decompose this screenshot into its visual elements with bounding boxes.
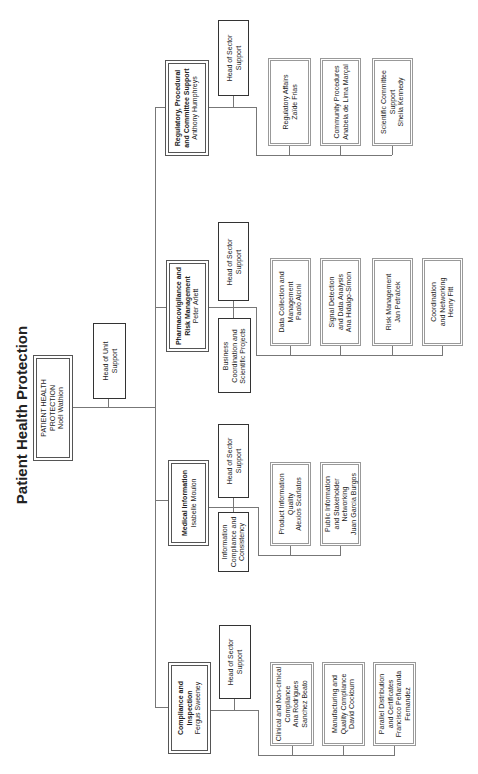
office-box-regulatory-affairs: Regulatory Affairs Zaïde Frias xyxy=(268,58,311,146)
unit-name-2: PROTECTION xyxy=(49,379,58,436)
sector-name: Compliance and xyxy=(177,681,186,735)
office-name: Public Information xyxy=(324,473,333,535)
connector-reg-c2 xyxy=(340,145,341,155)
extra-line: Coordination and xyxy=(230,328,239,383)
office-box-clinical-compliance: Clinical and Non-clinical Compliance Ana… xyxy=(270,662,314,746)
office-name-2: Quality Compliance xyxy=(339,674,348,735)
connector-pv-c3 xyxy=(392,345,393,355)
office-name-2: Compliance xyxy=(284,667,293,741)
sector-box-medical-information: Medical Information Isabelle Moulon xyxy=(168,460,209,546)
support-label-2: Support xyxy=(234,35,243,82)
support-label: Head of Unit xyxy=(101,342,110,381)
information-compliance-box: Information Compliance and Consistency xyxy=(218,512,249,572)
office-box-signal-detection: Signal Detection and Data Analysis Ana H… xyxy=(320,258,361,346)
sector-head: Fergus Sweeney xyxy=(194,681,203,735)
office-head: David Cockburn xyxy=(348,674,357,735)
support-label-2: Support xyxy=(235,639,244,686)
connector-pv-h xyxy=(208,307,256,308)
connector-pv-support xyxy=(233,300,234,318)
office-name-2: Management xyxy=(286,271,295,332)
office-head: Francisco Peñaranda xyxy=(395,671,404,738)
support-label: Head of Sector xyxy=(225,238,234,285)
office-box-public-information: Public Information and Stakeholder Netwo… xyxy=(320,462,361,546)
connector-med-support xyxy=(233,497,234,512)
connector-pv-c4 xyxy=(442,345,443,355)
office-name-2: and Certificates xyxy=(386,671,395,738)
sector-name: Medical Information xyxy=(180,470,189,536)
sector-box-regulatory: Regulatory, Procedural and Committee Sup… xyxy=(165,60,209,156)
office-head-2: Sanchez Beato xyxy=(301,667,310,741)
office-box-scientific-committee-support: Scientific Committee Support Sheila Kenn… xyxy=(372,58,413,146)
extra-line: Scientific Projects xyxy=(239,328,248,383)
extra-line: Information xyxy=(221,517,230,568)
connector-comp-support xyxy=(234,698,235,710)
connector-pv-children xyxy=(256,355,443,356)
office-box-parallel-distribution: Parallel Distribution and Certificates F… xyxy=(373,662,416,746)
office-head: Paolo Alcini xyxy=(295,271,304,332)
sector-name: Pharmacovigilance and xyxy=(175,267,184,345)
office-name-3: Networking xyxy=(341,473,350,535)
compliance-head-of-sector-support: Head of Sector Support xyxy=(219,625,251,699)
connector-comp-down xyxy=(258,710,259,755)
connector-med-c1 xyxy=(290,545,291,555)
office-box-community-procedures: Community Procedures Anabela de Lima Mar… xyxy=(320,58,361,146)
office-head: Ana Hidalgo-Simon xyxy=(345,272,354,332)
office-head: Zaïde Frias xyxy=(290,74,299,129)
office-name: Manufacturing and xyxy=(331,674,340,735)
office-name: Regulatory Affairs xyxy=(281,74,290,129)
office-name: Product Information xyxy=(278,473,287,534)
office-name: Data Collection and xyxy=(278,271,287,332)
sector-head: Isabelle Moulon xyxy=(189,470,198,536)
connector-reg-down xyxy=(256,107,257,155)
support-label-2: Support xyxy=(234,438,243,485)
sector-name-2: Inspection xyxy=(185,681,194,735)
office-name: Risk Management xyxy=(384,274,393,330)
sector-head: Peter Arlett xyxy=(192,267,201,345)
connector-pv-c1 xyxy=(290,345,291,355)
office-name-2: Quality xyxy=(286,473,295,534)
connector-reg-h xyxy=(208,107,256,108)
office-box-manufacturing-quality: Manufacturing and Quality Compliance Dav… xyxy=(322,662,365,746)
office-head: Sheila Kennedy xyxy=(397,70,406,134)
sector-name-2: Risk Management xyxy=(183,267,192,345)
pharmaco-head-of-sector-support: Head of Sector Support xyxy=(218,222,249,301)
connector-unit-support xyxy=(108,398,109,408)
office-head: Juan Garcia Burgos xyxy=(349,473,358,535)
office-name: Scientific Committee xyxy=(380,70,389,134)
office-name: Clinical and Non-clinical xyxy=(275,667,284,741)
unit-box-patient-health-protection: PATIENT HEALTH PROTECTION Noël Wathion xyxy=(33,355,73,461)
unit-head: Noël Wathion xyxy=(57,379,66,436)
connector-reg-c1 xyxy=(289,145,290,155)
office-head: Anabela de Lima Marçal xyxy=(341,64,350,140)
sector-name-2: and Committee Support xyxy=(183,68,192,147)
connector-comp-h xyxy=(210,710,258,711)
sector-name: Regulatory, Procedural xyxy=(174,68,183,147)
chart-title: Patient Health Protection xyxy=(13,326,30,504)
connector-spine-medical xyxy=(155,500,168,501)
regulatory-head-of-sector-support: Head of Sector Support xyxy=(218,20,249,96)
office-head: Jan Petráček xyxy=(393,274,402,330)
support-label-2: Support xyxy=(234,238,243,285)
medical-head-of-sector-support: Head of Sector Support xyxy=(218,424,249,498)
connector-comp-children xyxy=(258,755,395,756)
office-head: Alexios Scarlatos xyxy=(295,473,304,534)
connector-reg-support xyxy=(233,95,234,107)
connector-reg-children xyxy=(256,155,392,156)
office-name: Signal Detection xyxy=(328,272,337,332)
connector-comp-c3 xyxy=(394,745,395,755)
connector-pv-c2 xyxy=(340,345,341,355)
extra-line: Compliance and xyxy=(229,517,238,568)
support-label: Head of Sector xyxy=(225,438,234,485)
office-box-risk-management: Risk Management Jan Petráček xyxy=(372,258,413,346)
support-label-2: Support xyxy=(110,342,119,381)
connector-med-children xyxy=(258,555,341,556)
office-name-2: Support xyxy=(388,70,397,134)
office-box-data-collection: Data Collection and Management Paolo Alc… xyxy=(270,258,311,346)
extra-line: Consistency xyxy=(238,517,247,568)
office-name-2: and Networking xyxy=(438,278,447,327)
head-of-unit-support-box: Head of Unit Support xyxy=(93,323,126,399)
connector-comp-c1 xyxy=(292,745,293,755)
connector-reg-c3 xyxy=(392,145,393,155)
office-head: Ana Rodrigues xyxy=(292,667,301,741)
sector-head: Anthony Humphreys xyxy=(191,68,200,147)
